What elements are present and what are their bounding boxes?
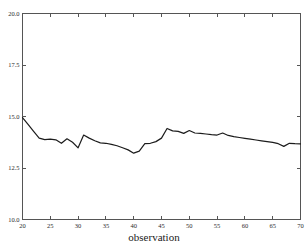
x-tick-label: 60 xyxy=(242,222,249,229)
y-axis-ticks: 10.012.515.017.520.0 xyxy=(8,10,300,223)
x-tick-label: 30 xyxy=(75,222,82,229)
x-tick-label: 35 xyxy=(103,222,110,229)
axes-box xyxy=(23,14,301,220)
data-line xyxy=(23,118,301,154)
x-tick-label: 20 xyxy=(19,222,26,229)
y-tick-label: 15.0 xyxy=(8,113,19,120)
data-series-group xyxy=(23,118,301,154)
plot-frame xyxy=(23,14,301,220)
y-tick-label: 10.0 xyxy=(8,216,19,223)
x-tick-label: 70 xyxy=(297,222,304,229)
x-tick-label: 65 xyxy=(269,222,276,229)
line-chart: 2025303540455055606570 10.012.515.017.52… xyxy=(0,0,308,244)
x-tick-label: 55 xyxy=(214,222,221,229)
x-tick-label: 50 xyxy=(186,222,193,229)
chart-figure: 2025303540455055606570 10.012.515.017.52… xyxy=(0,0,308,244)
x-axis-ticks: 2025303540455055606570 xyxy=(19,14,304,230)
y-tick-label: 12.5 xyxy=(8,164,19,171)
x-tick-label: 25 xyxy=(47,222,54,229)
y-tick-label: 20.0 xyxy=(8,10,19,17)
x-tick-label: 40 xyxy=(130,222,137,229)
x-tick-label: 45 xyxy=(158,222,165,229)
x-axis-title: observation xyxy=(128,231,180,243)
y-tick-label: 17.5 xyxy=(8,61,19,68)
